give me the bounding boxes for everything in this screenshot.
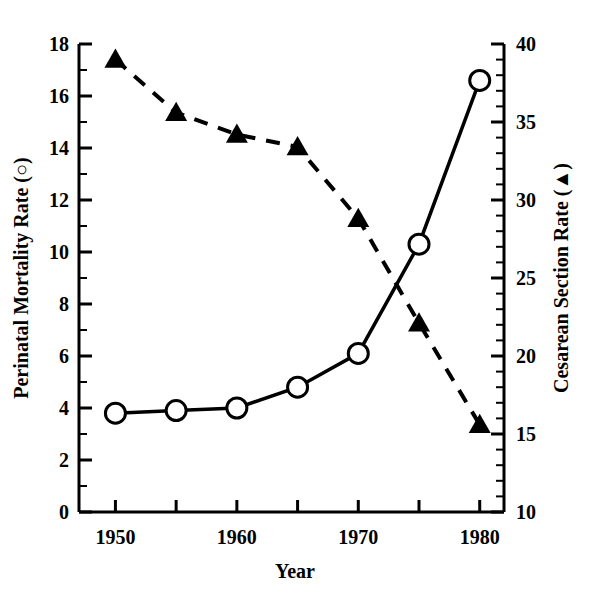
left-tick-label: 0 <box>59 501 69 523</box>
left-tick-label: 10 <box>49 241 69 263</box>
left-tick-label: 8 <box>59 293 69 315</box>
left-tick-label: 12 <box>49 189 69 211</box>
x-tick-label: 1970 <box>338 526 378 548</box>
x-tick-label: 1980 <box>460 526 500 548</box>
left-tick-label: 2 <box>59 449 69 471</box>
circle-marker <box>409 234 429 254</box>
circle-marker <box>166 401 186 421</box>
circle-marker <box>227 398 247 418</box>
x-axis-title: Year <box>275 560 315 582</box>
circle-marker <box>470 70 490 90</box>
circle-marker <box>348 343 368 363</box>
x-tick-label: 1950 <box>95 526 135 548</box>
circle-marker <box>288 377 308 397</box>
left-tick-label: 4 <box>59 397 69 419</box>
right-tick-label: 25 <box>516 267 536 289</box>
right-tick-label: 20 <box>516 345 536 367</box>
right-tick-label: 35 <box>516 111 536 133</box>
left-tick-label: 6 <box>59 345 69 367</box>
circle-marker <box>105 403 125 423</box>
x-tick-label: 1960 <box>217 526 257 548</box>
right-tick-label: 30 <box>516 189 536 211</box>
right-axis-title: Cesarean Section Rate (▲) <box>550 163 573 393</box>
chart-background <box>0 0 590 592</box>
left-axis-title: Perinatal Mortality Rate (○) <box>10 157 33 398</box>
left-tick-label: 14 <box>49 137 69 159</box>
chart-figure: 024681012141618 10152025303540 195019601… <box>0 0 590 592</box>
left-tick-label: 16 <box>49 85 69 107</box>
right-tick-label: 10 <box>516 501 536 523</box>
right-tick-label: 40 <box>516 33 536 55</box>
left-tick-label: 18 <box>49 33 69 55</box>
chart-canvas: 024681012141618 10152025303540 195019601… <box>0 0 590 592</box>
right-tick-label: 15 <box>516 423 536 445</box>
